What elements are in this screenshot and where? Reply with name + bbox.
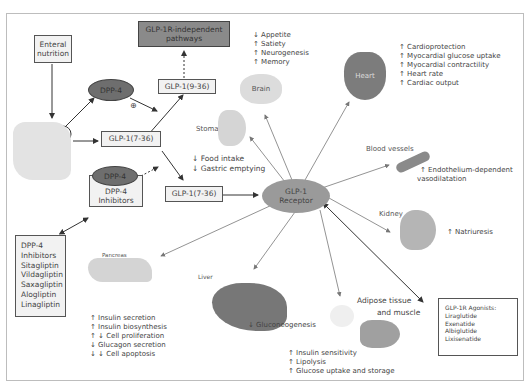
stomach-icon — [218, 110, 246, 146]
glp1-7-36-box-lower: GLP-1(7-36) — [165, 186, 223, 202]
blood-vessels-label: Blood vessels — [366, 145, 414, 153]
enteral-nutrition-box: Enteral nutrition — [34, 35, 72, 63]
heart-effects: ↑ Cardioprotection ↑ Myocardial glucose … — [399, 43, 500, 88]
kidney-label: Kidney — [379, 210, 403, 218]
glp1-7-36-box-upper: GLP-1(7-36) — [101, 131, 161, 147]
dpp4-inhibitor-enzyme: DPP-4 — [92, 166, 138, 186]
blood-vessels-effects: ↑ Endothelium-dependent vasodilatation — [420, 166, 513, 184]
muscle-label: and muscle — [377, 308, 420, 318]
heart-icon: Heart — [344, 52, 386, 100]
adipose-icon — [330, 305, 354, 327]
glp1r-independent-box: GLP-1R-independent pathways — [138, 21, 230, 47]
brain-icon: Brain — [240, 74, 282, 104]
glp1r-agonists-box: GLP-1R Agonists: Liraglutide Exenatide A… — [438, 298, 518, 356]
brain-effects: ↓ Appetite ↑ Satiety ↑ Neurogenesis ↑ Me… — [253, 31, 309, 67]
pancreas-effects: ↑ Insulin secretion ↑ Insulin biosynthes… — [90, 314, 167, 359]
dpp4-inhibitors-list: DPP-4 Inhibitors Sitagliptin Vildaglipti… — [15, 235, 66, 317]
glp1-receptor: GLP-1 Receptor — [262, 179, 330, 213]
stomach-effects: ↓ Food intake ↓ Gastric emptying — [192, 154, 265, 174]
liver-effects: ↓ Gluconeogenesis — [248, 321, 316, 330]
muscle-icon — [360, 320, 400, 348]
kidney-icon — [400, 210, 436, 250]
dpp4-enzyme: DPP-4 — [88, 79, 134, 101]
adipose-label: Adipose tissue — [357, 296, 411, 306]
adipose-effects: ↑ Insulin sensitivity ↑ Lipolysis ↑ Gluc… — [288, 349, 394, 376]
glp1-9-36-box: GLP-1(9-36) — [158, 79, 216, 94]
liver-label: Liver — [198, 273, 213, 280]
plus-sign: ⊕ — [130, 101, 137, 111]
pancreas-icon — [88, 258, 152, 282]
kidney-effects: ↑ Natriuresis — [447, 228, 493, 237]
intestine-icon — [13, 122, 71, 180]
